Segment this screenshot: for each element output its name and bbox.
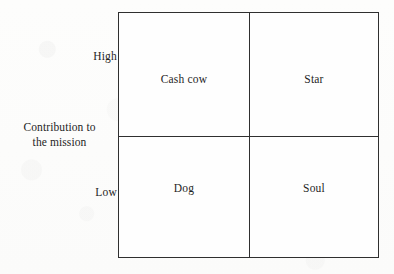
axis-title-line-2: the mission xyxy=(2,135,117,150)
quadrant-label-soul: Soul xyxy=(303,182,325,195)
axis-label-low: Low xyxy=(0,185,117,199)
quadrant-dog: Dog xyxy=(119,137,249,257)
axis-label-high: High xyxy=(0,49,117,63)
quadrant-label-cash-cow: Cash cow xyxy=(161,73,208,86)
matrix-box: Cash cow Star Dog Soul xyxy=(118,12,379,258)
quadrant-star: Star xyxy=(250,13,378,136)
quadrant-label-star: Star xyxy=(304,73,323,86)
quadrant-cash-cow: Cash cow xyxy=(119,13,249,136)
quadrant-label-dog: Dog xyxy=(174,182,194,195)
quadrant-soul: Soul xyxy=(250,137,378,257)
axis-title: Contribution to the mission xyxy=(2,120,117,150)
axis-title-line-1: Contribution to xyxy=(2,120,117,135)
figure-canvas: High Contribution to the mission Low Cas… xyxy=(0,0,394,274)
